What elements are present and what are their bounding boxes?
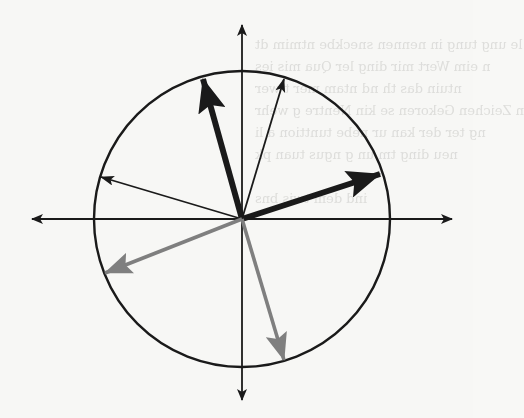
- vector-gray-lower-right: [242, 219, 284, 360]
- vector-gray-lower-left: [105, 219, 242, 273]
- vector-thin-black-upper-right: [242, 79, 284, 219]
- vector-thin-black-left: [101, 177, 242, 219]
- vector-thick-black-upper-left: [203, 79, 242, 219]
- vector-thick-black-right: [242, 174, 380, 219]
